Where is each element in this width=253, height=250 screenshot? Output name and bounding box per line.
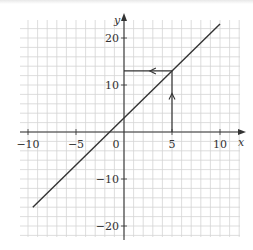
y-axis-label: y <box>113 14 121 27</box>
x-tick-label: 5 <box>169 138 176 151</box>
y-axis-arrow-icon <box>121 13 127 21</box>
x-tick-label: −5 <box>68 138 84 151</box>
x-tick-label: 0 <box>113 138 120 151</box>
y-tick-label: 10 <box>105 79 119 92</box>
series-line <box>33 24 220 207</box>
line-chart: xy−10−50510−20−101020 <box>0 0 253 250</box>
x-tick-label: 10 <box>213 138 227 151</box>
x-tick-label: −10 <box>16 138 39 151</box>
y-tick-label: −20 <box>96 220 119 233</box>
grid <box>20 20 240 237</box>
x-axis-arrow-icon <box>238 129 246 135</box>
x-axis-label: x <box>238 136 245 149</box>
y-tick-label: −10 <box>96 173 119 186</box>
y-tick-label: 20 <box>105 32 119 45</box>
